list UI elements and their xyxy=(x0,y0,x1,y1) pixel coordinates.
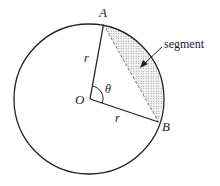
label-r-oa: r xyxy=(84,51,89,65)
label-segment: segment xyxy=(164,37,205,51)
label-b: B xyxy=(162,119,170,134)
circle-segment-diagram: A B O r r θ segment xyxy=(0,0,220,186)
label-a: A xyxy=(98,5,107,20)
label-o: O xyxy=(75,92,85,107)
label-theta: θ xyxy=(105,82,111,96)
segment-region xyxy=(104,25,163,123)
label-r-ob: r xyxy=(115,111,120,125)
